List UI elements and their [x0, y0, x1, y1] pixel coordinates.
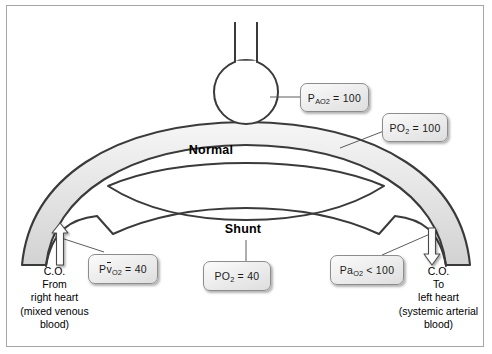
- inflow-note: C.O. From right heart (mixed venous bloo…: [2, 265, 107, 331]
- outflow-note: C.O. To left heart (systemic arterial bl…: [385, 265, 492, 331]
- outflow-note-line-1: C.O.: [385, 265, 492, 278]
- outflow-note-line-5: blood): [385, 318, 492, 331]
- inflow-note-line-1: C.O.: [2, 265, 107, 278]
- outflow-note-line-2: To: [385, 278, 492, 291]
- callout-end-capillary-po2-text: PO2 = 100: [389, 122, 440, 134]
- callout-end-capillary-po2[interactable]: PO2 = 100: [382, 113, 448, 142]
- callout-alveolar-po2-text: PAO2 = 100: [308, 92, 361, 104]
- outflow-note-line-4: (systemic arterial: [385, 305, 492, 318]
- diagram-canvas: Normal Shunt PAO2 = 100 PO2 = 100 PvO2 =…: [0, 0, 492, 354]
- inflow-note-line-3: right heart: [2, 291, 107, 304]
- region-label-shunt: Shunt: [225, 222, 261, 236]
- callout-shunt-po2-text: PO2 = 40: [214, 270, 259, 282]
- outflow-note-line-3: left heart: [385, 291, 492, 304]
- inflow-note-line-5: blood): [2, 318, 107, 331]
- inflow-note-line-4: (mixed venous: [2, 305, 107, 318]
- inflow-note-line-2: From: [2, 278, 107, 291]
- callout-alveolar-po2[interactable]: PAO2 = 100: [300, 83, 369, 112]
- callout-shunt-po2[interactable]: PO2 = 40: [203, 261, 271, 291]
- region-label-normal: Normal: [189, 143, 233, 157]
